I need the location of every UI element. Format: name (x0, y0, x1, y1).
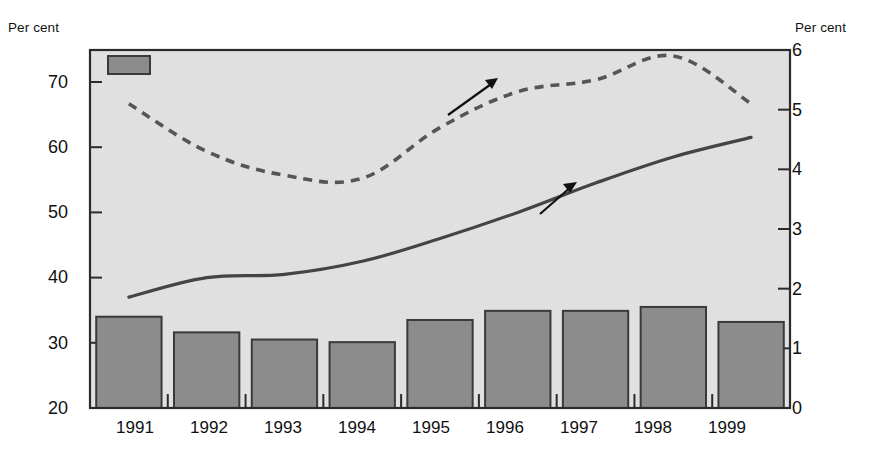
bar-1997 (563, 311, 628, 408)
bar-1991 (96, 317, 161, 408)
bar-1994 (330, 342, 395, 408)
legend-swatch-tax-value (108, 56, 150, 74)
bar-1998 (641, 307, 706, 408)
bar-1995 (407, 320, 472, 408)
chart-container: Per cent Per cent 70 60 50 40 30 20 6 5 … (0, 0, 877, 460)
bar-1996 (485, 311, 550, 408)
bar-1999 (718, 322, 783, 408)
chart-svg (0, 0, 877, 460)
bar-1992 (174, 332, 239, 408)
bar-1993 (252, 340, 317, 408)
